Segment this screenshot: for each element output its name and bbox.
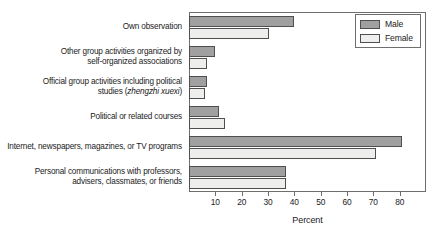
x-tick-label-50: 50 <box>309 197 333 207</box>
legend-swatch-female-icon <box>360 34 380 43</box>
category-label-line: advisers, classmates, or friends <box>0 177 182 187</box>
category-label-line: Official group activities including poli… <box>0 77 182 87</box>
italic-term: zhengzhi xuexi <box>127 87 179 96</box>
chart-legend: Male Female <box>355 14 421 48</box>
category-label-line: Internet, newspapers, magazines, or TV p… <box>0 142 182 152</box>
bar-female-1 <box>189 58 207 69</box>
legend-item-female: Female <box>360 32 417 44</box>
x-tick-label-10: 10 <box>203 197 227 207</box>
bar-female-3 <box>189 118 225 129</box>
legend-swatch-male-icon <box>360 20 380 29</box>
x-tick-mark-20 <box>242 192 243 196</box>
bar-female-4 <box>189 148 376 159</box>
x-tick-mark-60 <box>347 192 348 196</box>
x-tick-label-70: 70 <box>361 197 385 207</box>
x-tick-label-20: 20 <box>230 197 254 207</box>
x-axis-title: Percent <box>189 215 426 225</box>
x-tick-mark-10 <box>215 192 216 196</box>
category-label-2: Official group activities including poli… <box>0 77 182 96</box>
category-label-3: Political or related courses <box>0 112 182 122</box>
bar-female-0 <box>189 28 269 39</box>
category-label-line: Other group activities organized by <box>0 47 182 57</box>
bar-male-3 <box>189 106 219 117</box>
legend-item-male: Male <box>360 18 417 30</box>
bar-male-2 <box>189 76 207 87</box>
category-label-1: Other group activities organized byself-… <box>0 47 182 66</box>
category-label-line: Political or related courses <box>0 112 182 122</box>
x-tick-label-40: 40 <box>282 197 306 207</box>
x-tick-label-80: 80 <box>388 197 412 207</box>
category-label-0: Own observation <box>0 22 182 32</box>
legend-label-male: Male <box>385 19 403 29</box>
bar-chart-figure: Own observationOther group activities or… <box>0 0 433 241</box>
x-tick-label-30: 30 <box>256 197 280 207</box>
bar-male-1 <box>189 46 215 57</box>
x-tick-mark-40 <box>294 192 295 196</box>
category-axis-labels: Own observationOther group activities or… <box>0 12 186 192</box>
category-label-line: Personal communications with professors, <box>0 167 182 177</box>
x-axis: 1020304050607080 <box>189 192 426 214</box>
category-label-5: Personal communications with professors,… <box>0 167 182 186</box>
x-tick-mark-30 <box>268 192 269 196</box>
x-tick-label-60: 60 <box>335 197 359 207</box>
x-tick-mark-50 <box>321 192 322 196</box>
x-tick-mark-80 <box>400 192 401 196</box>
bar-male-0 <box>189 16 294 27</box>
bar-female-5 <box>189 178 286 189</box>
x-tick-mark-70 <box>373 192 374 196</box>
bar-male-5 <box>189 166 286 177</box>
category-label-4: Internet, newspapers, magazines, or TV p… <box>0 142 182 152</box>
bar-female-2 <box>189 88 205 99</box>
category-label-line: studies (zhengzhi xuexi) <box>0 87 182 97</box>
category-label-line: Own observation <box>0 22 182 32</box>
legend-label-female: Female <box>385 33 413 43</box>
category-label-line: self-organized associations <box>0 57 182 67</box>
bar-male-4 <box>189 136 402 147</box>
